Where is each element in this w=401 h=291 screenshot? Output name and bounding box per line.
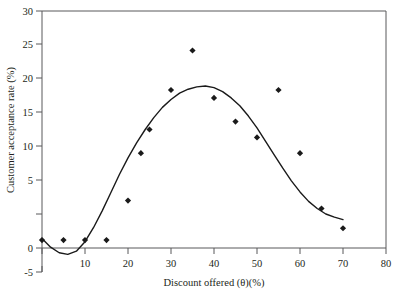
x-tick-label-80: 80 (381, 258, 392, 269)
chart-canvas: 30 25 20 15 10 5 0 -5 10 20 30 40 (0, 0, 401, 291)
y-tick-label-neg5: -5 (24, 267, 33, 278)
figure-container: 30 25 20 15 10 5 0 -5 10 20 30 40 (0, 0, 401, 291)
x-tick-label-40: 40 (209, 258, 220, 269)
y-tick-label-5: 5 (28, 175, 33, 186)
y-tick-label-0: 0 (28, 243, 33, 254)
x-tick-label-10: 10 (80, 258, 91, 269)
y-tick-label-15: 15 (23, 107, 34, 118)
x-axis-title: Discount offered (θ)(%) (163, 277, 265, 289)
y-axis-title: Customer acceptance rate (%) (5, 66, 17, 193)
x-tick-label-70: 70 (338, 258, 349, 269)
x-tick-label-30: 30 (166, 258, 177, 269)
y-tick-label-10: 10 (23, 141, 34, 152)
x-tick-label-60: 60 (295, 258, 306, 269)
y-tick-label-30: 30 (23, 6, 34, 17)
figure-background (0, 0, 401, 291)
y-tick-label-20: 20 (23, 73, 34, 84)
x-tick-label-50: 50 (252, 258, 263, 269)
y-tick-label-25: 25 (23, 39, 34, 50)
x-tick-label-20: 20 (123, 258, 134, 269)
